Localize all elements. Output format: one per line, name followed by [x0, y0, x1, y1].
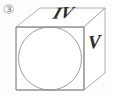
figure-screenshot: ③ IV V	[0, 0, 113, 97]
circled-number-three-icon: ③	[0, 1, 17, 18]
cube-front-face	[16, 27, 84, 90]
right-face-label: V	[88, 30, 101, 54]
